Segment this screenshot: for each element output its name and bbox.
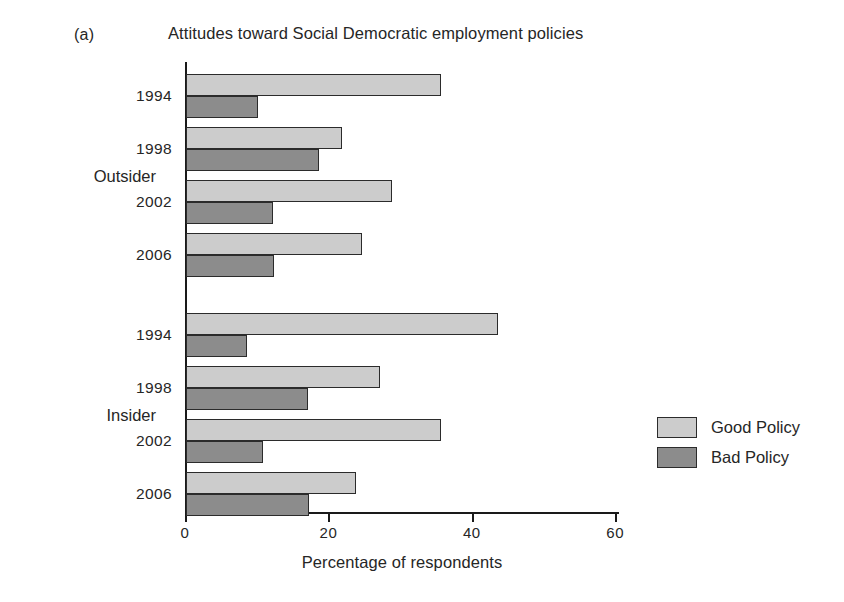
bar-outsider-1994-good — [186, 74, 441, 96]
bar-insider-2006-bad — [186, 494, 309, 516]
bar-outsider-2006-bad — [186, 255, 274, 277]
x-tick-label-0: 0 — [181, 524, 190, 541]
x-tick-20 — [328, 514, 330, 522]
x-tick-label-40: 40 — [463, 524, 481, 541]
x-tick-40 — [472, 514, 474, 522]
chart-title: Attitudes toward Social Democratic emplo… — [168, 24, 583, 43]
bar-outsider-1998-bad — [186, 149, 319, 171]
figure-panel-a: (a) Attitudes toward Social Democratic e… — [0, 0, 844, 602]
group-label-insider: Insider — [0, 405, 156, 424]
bar-outsider-2006-good — [186, 233, 362, 255]
bar-outsider-1998-good — [186, 127, 342, 149]
bar-insider-1994-bad — [186, 335, 247, 357]
legend-label-good: Good Policy — [711, 418, 800, 437]
legend-swatch-good — [657, 417, 697, 438]
panel-label: (a) — [74, 26, 94, 44]
bar-insider-1998-bad — [186, 388, 308, 410]
year-label-insider-2002: 2002 — [104, 432, 172, 450]
bar-insider-2002-good — [186, 419, 441, 441]
bar-insider-2006-good — [186, 472, 356, 494]
bar-insider-1998-good — [186, 366, 380, 388]
bar-outsider-2002-bad — [186, 202, 273, 224]
year-label-outsider-1994: 1994 — [104, 87, 172, 105]
year-label-insider-1994: 1994 — [104, 326, 172, 344]
year-label-outsider-2006: 2006 — [104, 246, 172, 264]
year-label-insider-1998: 1998 — [104, 379, 172, 397]
year-label-insider-2006: 2006 — [104, 485, 172, 503]
group-label-outsider: Outsider — [0, 166, 156, 185]
x-tick-label-60: 60 — [606, 524, 624, 541]
plot-area: 0204060 — [185, 62, 625, 514]
x-tick-60 — [615, 514, 617, 522]
bar-insider-1994-good — [186, 313, 498, 335]
legend-label-bad: Bad Policy — [711, 448, 789, 467]
bar-outsider-2002-good — [186, 180, 392, 202]
year-label-outsider-1998: 1998 — [104, 140, 172, 158]
year-label-outsider-2002: 2002 — [104, 193, 172, 211]
x-tick-label-20: 20 — [320, 524, 338, 541]
x-axis-title: Percentage of respondents — [185, 553, 619, 572]
legend-swatch-bad — [657, 447, 697, 468]
chart-legend: Good PolicyBad Policy — [657, 412, 800, 472]
bar-outsider-1994-bad — [186, 96, 258, 118]
legend-item-bad: Bad Policy — [657, 442, 800, 472]
legend-item-good: Good Policy — [657, 412, 800, 442]
bar-insider-2002-bad — [186, 441, 263, 463]
